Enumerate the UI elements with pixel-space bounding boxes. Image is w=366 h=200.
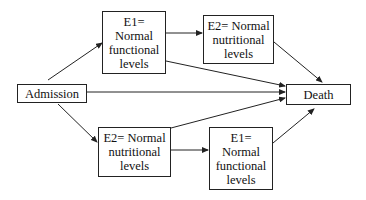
e1-bottom-node: E1= Normal functional levels bbox=[209, 127, 273, 190]
edge-admission-to-e1-top bbox=[48, 43, 102, 80]
edge-e2-top-to-death bbox=[274, 42, 322, 82]
e2-bottom-node: E2= Normal nutritional levels bbox=[98, 127, 171, 177]
death-node: Death bbox=[286, 84, 351, 105]
edge-e2-bottom-to-death bbox=[171, 98, 285, 128]
e1-top-node: E1= Normal functional levels bbox=[102, 11, 166, 74]
e1-top-label: E1= Normal functional levels bbox=[109, 15, 160, 71]
e2-bottom-label: E2= Normal nutritional levels bbox=[103, 131, 165, 173]
e1-bottom-label: E1= Normal functional levels bbox=[216, 131, 267, 187]
admission-node: Admission bbox=[17, 84, 87, 103]
edge-e1-bottom-to-death bbox=[273, 109, 314, 143]
e2-top-node: E2= Normal nutritional levels bbox=[203, 15, 274, 64]
death-label: Death bbox=[304, 88, 334, 102]
edge-e1-top-to-death bbox=[166, 61, 285, 86]
edge-admission-to-e2-bottom bbox=[58, 104, 97, 142]
e2-top-label: E2= Normal nutritional levels bbox=[207, 19, 269, 61]
admission-label: Admission bbox=[25, 87, 79, 101]
